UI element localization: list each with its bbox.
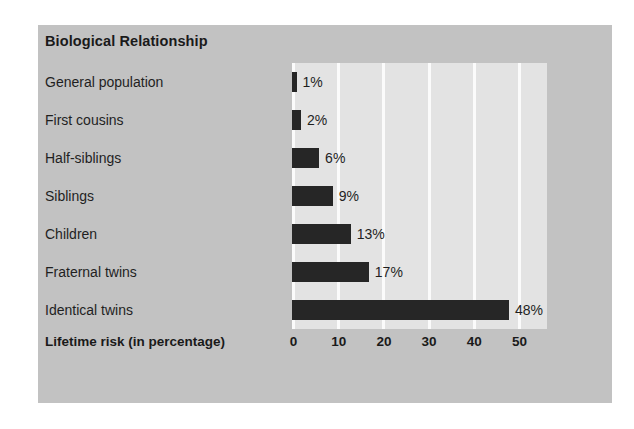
x-tick-label: 0 [290,334,298,349]
bar-series: 1% 2% 6% 9% 13% 17% [292,63,547,329]
x-axis-ticks: 01020304050 [292,334,572,354]
bar-value-label: 9% [339,188,359,204]
x-tick-label: 20 [376,334,391,349]
bar-row: 2% [292,101,547,139]
bar-value-label: 6% [325,150,345,166]
bar-row: 6% [292,139,547,177]
category-label-column: General population First cousins Half-si… [45,63,295,329]
bar-row: 1% [292,63,547,101]
bar [292,110,301,130]
bar [292,300,509,320]
bar-value-label: 1% [303,74,323,90]
bar-row: 9% [292,177,547,215]
x-axis-title: Lifetime risk (in percentage) [45,334,225,349]
bar-value-label: 48% [515,302,543,318]
bar-row: 17% [292,253,547,291]
category-label: First cousins [45,101,295,139]
bar [292,148,319,168]
x-tick-label: 30 [422,334,437,349]
plot-area: 1% 2% 6% 9% 13% 17% [292,63,547,329]
category-label: Fraternal twins [45,253,295,291]
bar [292,186,333,206]
chart-title: Biological Relationship [45,33,208,49]
category-label: Identical twins [45,291,295,329]
category-label: General population [45,63,295,101]
bar-value-label: 17% [375,264,403,280]
bar-value-label: 13% [357,226,385,242]
bar-value-label: 2% [307,112,327,128]
x-tick-label: 50 [512,334,527,349]
bar-row: 48% [292,291,547,329]
chart-screenshot: Biological Relationship General populati… [0,0,634,429]
category-label: Siblings [45,177,295,215]
bar-row: 13% [292,215,547,253]
category-label: Half-siblings [45,139,295,177]
category-label: Children [45,215,295,253]
x-tick-label: 10 [331,334,346,349]
bar [292,224,351,244]
bar [292,262,369,282]
x-tick-label: 40 [467,334,482,349]
bar [292,72,297,92]
